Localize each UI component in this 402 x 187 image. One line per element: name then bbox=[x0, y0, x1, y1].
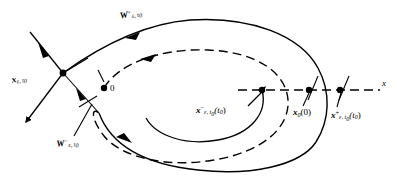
label-x-zero: x0(0) bbox=[293, 108, 311, 118]
unstable-manifold-solid bbox=[63, 19, 327, 142]
leader-w-minus bbox=[74, 104, 92, 136]
arrowhead-dashed-top bbox=[140, 54, 156, 62]
label-w-stable: W−ε, t0 bbox=[56, 137, 79, 151]
label-origin: 0 bbox=[110, 84, 115, 93]
arrowhead-lower-branch bbox=[76, 88, 86, 101]
arrowhead-incoming bbox=[38, 42, 49, 58]
stable-manifold-dashed bbox=[93, 50, 288, 163]
stable-manifold-incoming bbox=[30, 32, 63, 73]
saddle-branch-lower-right bbox=[63, 73, 99, 113]
label-axis-x: x bbox=[382, 79, 386, 88]
label-x-plus: x+ε, t0(t0) bbox=[331, 110, 361, 122]
origin-tick bbox=[98, 70, 104, 82]
unstable-manifold-outgoing bbox=[26, 73, 63, 122]
phase-portrait-figure: W+ε, t0 xε, t0 0 W−ε, t0 x−ε, t0(t0) x0(… bbox=[0, 0, 402, 187]
label-x-minus: x−ε, t0(t0) bbox=[196, 105, 226, 117]
diagram-canvas bbox=[0, 0, 402, 187]
